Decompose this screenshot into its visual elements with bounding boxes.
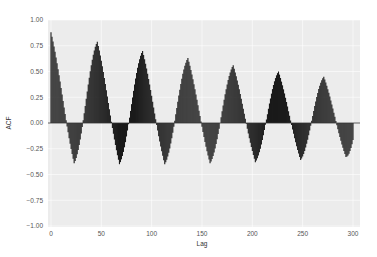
x-tick-label: 100: [146, 230, 157, 237]
y-tick-label: 0.00: [30, 119, 43, 126]
x-tick-label: 300: [348, 230, 359, 237]
y-tick-label: −0.25: [27, 145, 44, 152]
acf-chart: 1.000.750.500.250.00−0.25−0.50−0.75−1.00…: [0, 0, 377, 257]
y-tick-label: 1.00: [30, 16, 43, 23]
y-tick-label: 0.25: [30, 94, 43, 101]
x-tick-label: 0: [49, 230, 53, 237]
x-axis-ticks: 050100150200250300: [49, 230, 359, 237]
y-tick-label: −0.75: [27, 197, 44, 204]
y-tick-label: 0.75: [30, 42, 43, 49]
y-tick-label: 0.50: [30, 68, 43, 75]
x-tick-label: 150: [197, 230, 208, 237]
y-axis-label: ACF: [5, 116, 12, 129]
y-axis-ticks: 1.000.750.500.250.00−0.25−0.50−0.75−1.00: [27, 16, 44, 229]
x-tick-label: 200: [247, 230, 258, 237]
y-tick-label: −0.50: [27, 171, 44, 178]
y-tick-label: −1.00: [27, 222, 44, 229]
x-tick-label: 50: [98, 230, 106, 237]
x-axis-label: Lag: [197, 240, 208, 248]
x-tick-label: 250: [297, 230, 308, 237]
